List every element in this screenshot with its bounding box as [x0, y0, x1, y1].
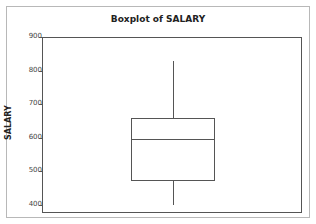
iqr-box — [131, 118, 215, 182]
lower-whisker — [173, 181, 174, 205]
y-tick-label: 500 — [29, 166, 42, 174]
y-tick-label: 900 — [29, 32, 42, 40]
y-tick-label: 600 — [29, 133, 42, 141]
y-tick-label: 800 — [29, 66, 42, 74]
y-axis-label: SALARY — [4, 105, 13, 140]
median-line — [131, 139, 215, 140]
y-tick-label: 400 — [29, 200, 42, 208]
y-tick-label: 700 — [29, 99, 42, 107]
upper-whisker — [173, 61, 174, 118]
chart-title: Boxplot of SALARY — [0, 14, 316, 24]
